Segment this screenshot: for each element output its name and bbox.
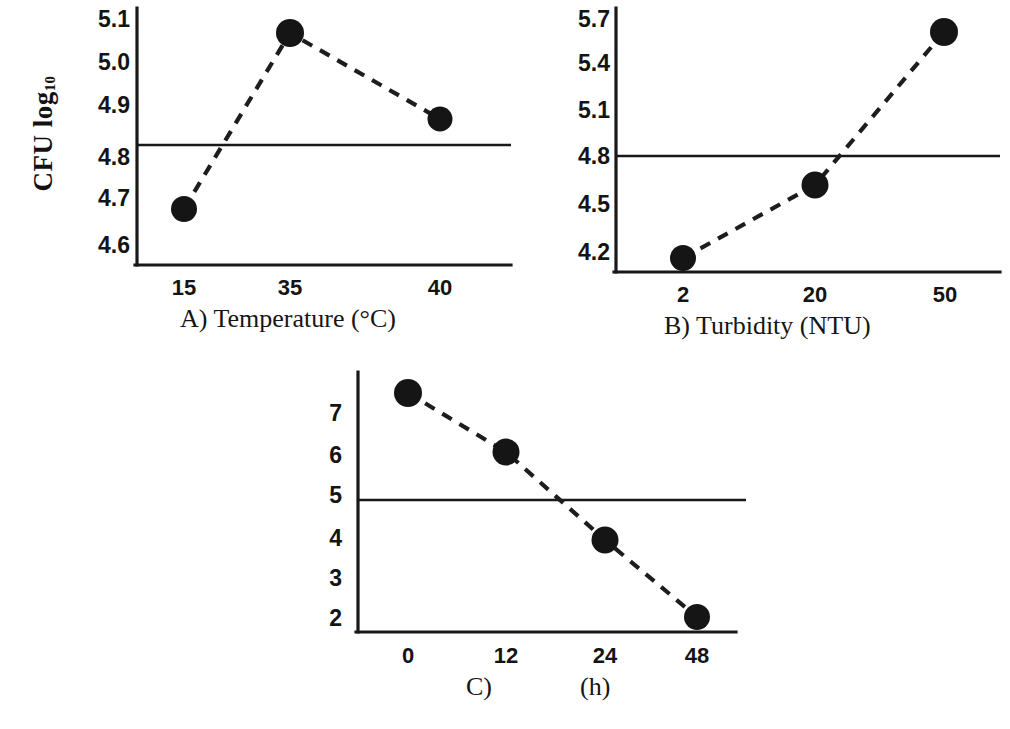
panel-c-caption-left: C) [466, 672, 492, 702]
panel-c-series-line [408, 393, 697, 617]
panel-b: 5.7 5.4 5.1 4.8 4.5 4.2 2 20 50 B) Turbi… [0, 0, 1010, 345]
panel-c-xtick-1: 12 [476, 643, 536, 669]
figure-canvas: CFU log10 5.1 5.0 4.9 4.8 4.7 4.6 15 35 … [0, 0, 1010, 729]
panel-c-xtick-2: 24 [575, 643, 635, 669]
panel-b-xtick-1: 20 [785, 282, 845, 308]
panel-b-xtick-0: 2 [653, 282, 713, 308]
panel-b-marker-50 [930, 18, 958, 46]
panel-c-xtick-3: 48 [667, 643, 727, 669]
panel-b-marker-20 [802, 172, 829, 199]
panel-c-caption-right: (h) [580, 672, 610, 702]
panel-b-marker-2 [670, 245, 696, 271]
panel-c-marker-24h [592, 527, 619, 554]
panel-c-xtick-0: 0 [378, 643, 438, 669]
panel-b-xtick-2: 50 [915, 282, 975, 308]
panel-b-series-line [683, 32, 944, 258]
panel-b-caption: B) Turbidity (NTU) [664, 311, 871, 341]
panel-c-marker-12h [493, 439, 520, 466]
panel-c-marker-48h [684, 604, 710, 630]
panel-c: 7 6 5 4 3 2 0 12 24 48 C) (h) [0, 360, 1010, 729]
panel-c-marker-0h [394, 379, 422, 407]
panel-b-plot [0, 0, 1010, 300]
panel-c-plot [0, 360, 1010, 650]
